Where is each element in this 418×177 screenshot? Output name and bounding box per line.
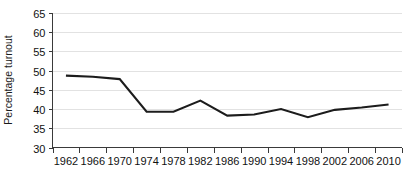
y-tick-label: 50 <box>33 66 45 78</box>
x-tick-label: 2002 <box>323 155 347 167</box>
y-axis-title: Percentage turnout <box>2 35 14 124</box>
line-chart-figure: 3035404550556065 19621966197019741978198… <box>0 0 418 177</box>
y-tick-label: 35 <box>33 123 45 135</box>
x-tick-label: 2006 <box>349 155 373 167</box>
x-tick-label: 1978 <box>161 155 185 167</box>
y-tick-label: 65 <box>33 8 45 20</box>
x-tick-label: 1990 <box>242 155 266 167</box>
chart-background <box>0 0 418 177</box>
x-tick-label: 2010 <box>376 155 400 167</box>
y-tick-label: 60 <box>33 27 45 39</box>
x-tick-label: 1962 <box>54 155 78 167</box>
y-tick-label: 40 <box>33 104 45 116</box>
x-tick-label: 1970 <box>107 155 131 167</box>
x-tick-label: 1994 <box>269 155 293 167</box>
y-tick-label: 45 <box>33 85 45 97</box>
x-tick-label: 1982 <box>188 155 212 167</box>
x-tick-label: 1966 <box>81 155 105 167</box>
y-tick-label: 55 <box>33 46 45 58</box>
x-tick-label: 1998 <box>296 155 320 167</box>
x-tick-label: 1974 <box>134 155 158 167</box>
chart-canvas: 3035404550556065 19621966197019741978198… <box>0 0 418 177</box>
y-tick-label: 30 <box>33 143 45 155</box>
x-tick-label: 1986 <box>215 155 239 167</box>
